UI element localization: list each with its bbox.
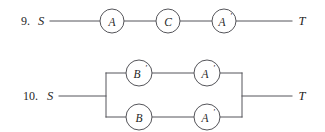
- worksheet-figure-page: 9. S A C A ′: [0, 0, 325, 132]
- problem-10-node-b[interactable]: B: [126, 104, 152, 130]
- problem-10-bottom-node-a-prime-label: A: [200, 112, 209, 124]
- problem-9-source-terminal-label: S: [38, 14, 45, 28]
- problem-10-sink-terminal-label: T: [299, 89, 307, 103]
- problem-10-top-node-a-prime-label: A: [200, 68, 209, 80]
- problem-10-node-b-prime-label: B: [133, 68, 140, 80]
- problem-10-number: 10.: [23, 89, 38, 103]
- problem-10-source-terminal-label: S: [47, 89, 54, 103]
- problem-9-node-a[interactable]: A: [100, 9, 124, 33]
- problem-10-node-b-prime[interactable]: B ′: [126, 60, 152, 86]
- problem-9-node-c-label: C: [164, 16, 172, 28]
- problem-9-number: 9.: [21, 14, 30, 28]
- problem-9-sink-terminal-label: T: [299, 14, 307, 28]
- problem-10-top-node-a-prime[interactable]: A ′: [194, 60, 220, 86]
- problem-10-bottom-node-a-prime[interactable]: A ′: [194, 104, 220, 130]
- network-diagrams-canvas: 9. S A C A ′: [0, 0, 325, 132]
- problem-10-node-b-label: B: [135, 112, 142, 124]
- problem-10-diagram: 10. S B ′: [23, 60, 307, 130]
- problem-9-node-c[interactable]: C: [156, 9, 180, 33]
- problem-9-node-a-prime[interactable]: A ′: [212, 9, 236, 33]
- problem-9-node-a-prime-label: A: [217, 16, 226, 28]
- problem-9-diagram: 9. S A C A ′: [21, 9, 307, 33]
- problem-9-node-a-label: A: [107, 16, 116, 28]
